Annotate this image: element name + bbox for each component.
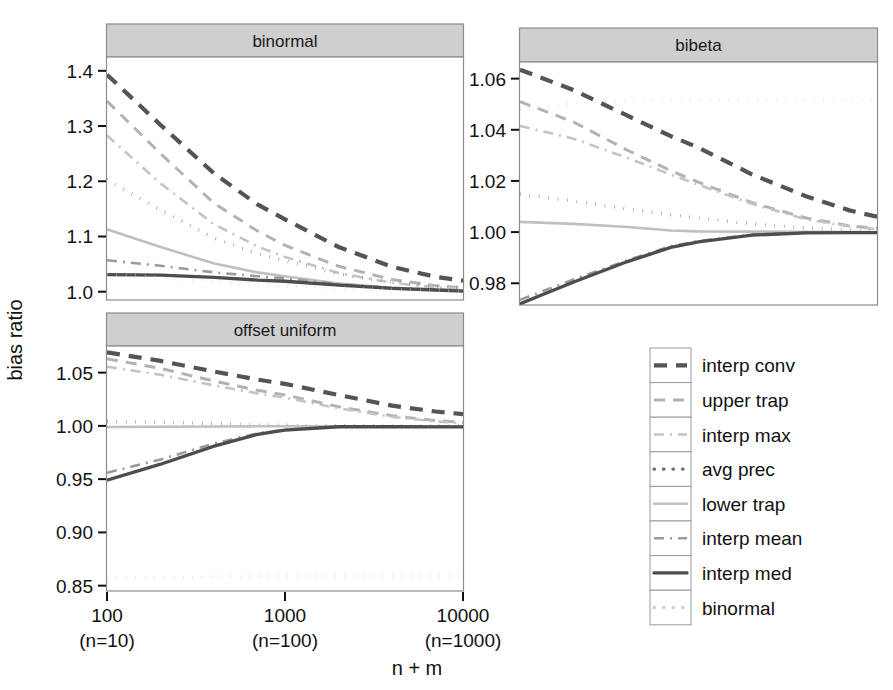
x-tick-label-bottom: (n=100) <box>252 630 318 651</box>
y-tick-label: 1.04 <box>469 120 506 141</box>
y-tick-label: 1.1 <box>67 226 93 247</box>
y-tick-label: 1.05 <box>56 363 93 384</box>
x-axis-title: n + m <box>392 657 443 679</box>
legend-label-interp-med: interp med <box>702 563 792 584</box>
plot-frame-binormal <box>107 57 464 300</box>
legend-label-avg-prec: avg prec <box>702 459 775 480</box>
x-tick-label-bottom: (n=1000) <box>425 630 502 651</box>
y-tick-label: 1.4 <box>67 61 94 82</box>
y-tick-label: 0.85 <box>56 576 93 597</box>
legend-label-interp-mean: interp mean <box>702 528 802 549</box>
y-tick-label: 0.95 <box>56 469 93 490</box>
y-tick-label: 1.2 <box>67 171 93 192</box>
y-tick-label: 1.0 <box>67 282 93 303</box>
chart-canvas: binormal1.01.11.21.31.4bibeta0.981.001.0… <box>0 0 893 690</box>
panel-title-bibeta: bibeta <box>675 36 722 55</box>
panel-offset-uniform: offset uniform0.850.900.951.001.05100(n=… <box>56 313 501 651</box>
x-tick-label-top: 100 <box>91 605 123 626</box>
x-tick-label-bottom: (n=10) <box>79 630 134 651</box>
x-tick-label-top: 10000 <box>437 605 490 626</box>
y-tick-label: 0.90 <box>56 522 93 543</box>
figure-root: binormal1.01.11.21.31.4bibeta0.981.001.0… <box>0 0 893 690</box>
y-tick-label: 1.00 <box>56 416 93 437</box>
y-axis-title: bias ratio <box>4 299 26 380</box>
legend-label-interp-conv: interp conv <box>702 355 795 376</box>
panel-binormal: binormal1.01.11.21.31.4 <box>67 24 464 303</box>
legend-label-lower-trap: lower trap <box>702 494 785 515</box>
y-tick-label: 1.3 <box>67 116 93 137</box>
panel-title-binormal: binormal <box>252 32 317 51</box>
panel-title-offset-uniform: offset uniform <box>234 321 337 340</box>
y-tick-label: 1.00 <box>469 222 506 243</box>
y-tick-label: 0.98 <box>469 273 506 294</box>
y-tick-label: 1.06 <box>469 69 506 90</box>
x-tick-label-top: 1000 <box>264 605 306 626</box>
legend-label-upper-trap: upper trap <box>702 390 789 411</box>
legend-label-binormal: binormal <box>702 598 775 619</box>
legend-label-interp-max: interp max <box>702 425 791 446</box>
panel-bibeta: bibeta0.981.001.021.041.06 <box>469 28 877 305</box>
legend: interp convupper trapinterp maxavg precl… <box>650 348 802 625</box>
y-tick-label: 1.02 <box>469 171 506 192</box>
